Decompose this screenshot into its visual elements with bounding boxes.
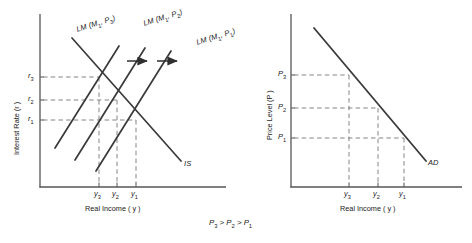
left-x-tick-y3: y3: [94, 190, 101, 200]
right-x-tick-y2: y2: [373, 190, 380, 200]
left-y-tick-r2: r2: [28, 95, 34, 105]
lm2-curve: [75, 48, 145, 160]
left-x-tick-y2: y2: [112, 190, 119, 200]
is-curve-label: IS: [184, 160, 191, 168]
lm3-curve: [55, 46, 119, 148]
right-y-axis-label: Price Level (P ): [266, 90, 273, 140]
right-x-axis-label: Real Income ( y ): [340, 205, 396, 212]
lm1-curve: [96, 51, 171, 171]
left-x-axis-label: Real Income ( y ): [85, 205, 141, 212]
right-panel-guide-lines: [294, 75, 404, 183]
is-curve: [72, 38, 181, 161]
left-x-tick-y1: y1: [131, 190, 138, 200]
left-y-tick-r3: r3: [28, 72, 34, 82]
right-y-tick-p2: P2: [278, 103, 286, 113]
right-x-tick-y3: y3: [344, 190, 351, 200]
figure-caption: P3 > P2 > P1: [209, 219, 252, 229]
right-y-tick-p1: P1: [278, 133, 286, 143]
figure-is-lm-ad-derivation: LM (M1, P3) LM (M1, P2) LM (M1, P1) IS I…: [0, 0, 472, 243]
lm-curves: [55, 46, 171, 171]
right-x-tick-y1: y1: [399, 190, 406, 200]
right-y-tick-p3: P3: [278, 70, 286, 80]
left-y-axis-label: Interest Rate (r ): [13, 102, 20, 155]
left-y-tick-r1: r1: [28, 115, 34, 125]
right-panel-tick-marks: [291, 75, 404, 187]
ad-curve: [314, 28, 426, 161]
ad-curve-label: AD: [428, 159, 439, 167]
